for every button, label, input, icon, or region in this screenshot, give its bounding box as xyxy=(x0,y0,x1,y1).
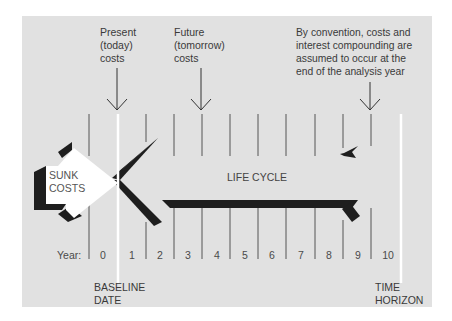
year-7: 7 xyxy=(291,249,311,261)
year-8: 8 xyxy=(319,249,339,261)
year-axis-label: Year: xyxy=(57,249,81,262)
year-5: 5 xyxy=(235,249,255,261)
future-costs-label: Future (tomorrow) costs xyxy=(174,26,225,65)
year-2: 2 xyxy=(150,249,170,261)
convention-label: By convention, costs and interest compou… xyxy=(296,26,412,78)
sunk-costs-label: SUNK COSTS xyxy=(49,169,85,195)
present-costs-label: Present (today) costs xyxy=(100,26,136,65)
time-horizon-label: TIME HORIZON xyxy=(375,281,423,307)
year-9: 9 xyxy=(348,249,368,261)
year-6: 6 xyxy=(262,249,282,261)
life-cycle-label: LIFE CYCLE xyxy=(227,171,287,184)
year-3: 3 xyxy=(178,249,198,261)
future-arrow-icon xyxy=(191,68,211,110)
baseline-date-label: BASELINE DATE xyxy=(94,281,145,307)
convention-arrow-icon xyxy=(360,82,380,110)
present-arrow-icon xyxy=(107,68,127,110)
year-4: 4 xyxy=(207,249,227,261)
year-0: 0 xyxy=(93,249,113,261)
upper-year-ticks xyxy=(89,114,371,156)
year-1: 1 xyxy=(122,249,142,261)
year-10: 10 xyxy=(378,249,398,261)
